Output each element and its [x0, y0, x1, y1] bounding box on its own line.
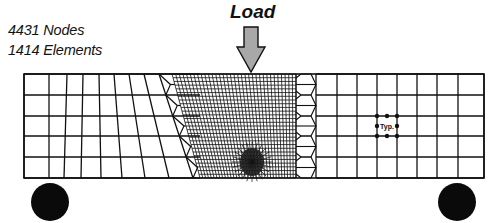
crack-tip-refinement [232, 142, 272, 182]
supports [31, 183, 476, 221]
typical-element: Typ. [375, 114, 399, 138]
load-arrow-icon [237, 27, 265, 72]
right-support-icon [438, 183, 476, 221]
coarse-mesh-right [316, 74, 484, 178]
typical-element-label: Typ. [380, 123, 394, 131]
coarse-mesh-left [24, 74, 200, 178]
left-support-icon [31, 183, 69, 221]
fe-mesh-diagram: Typ. [0, 0, 491, 223]
refined-mesh-center [172, 74, 296, 178]
